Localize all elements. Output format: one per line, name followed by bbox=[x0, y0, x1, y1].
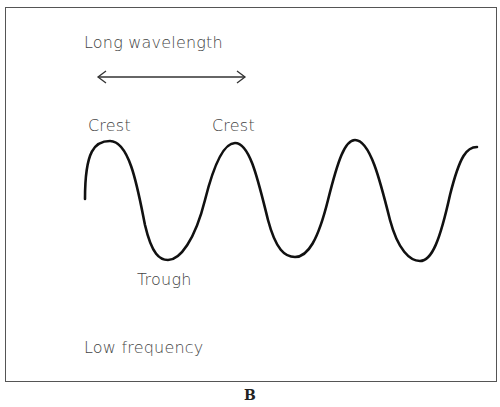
crest-label-2: Crest bbox=[212, 116, 255, 135]
frequency-label: Low frequency bbox=[84, 338, 203, 357]
double-arrow-icon bbox=[98, 71, 245, 83]
trough-label: Trough bbox=[137, 270, 192, 289]
figure-caption: B bbox=[0, 387, 500, 403]
wave-diagram bbox=[0, 0, 500, 407]
wave-line bbox=[85, 140, 477, 261]
crest-label-1: Crest bbox=[88, 116, 131, 135]
